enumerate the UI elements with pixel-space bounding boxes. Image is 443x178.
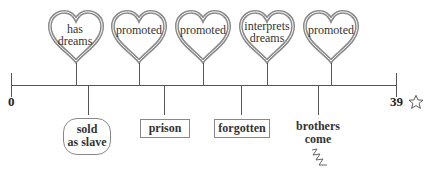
below-event-box: sold as slave: [63, 118, 111, 155]
timeline-axis-tail: [377, 85, 397, 86]
event-stem: [241, 85, 242, 115]
heart-icon: [302, 8, 360, 66]
timeline-start-label: 0: [8, 94, 15, 110]
event-stem: [203, 63, 204, 85]
below-event-label: forgotten: [218, 121, 265, 135]
timeline-end-label: 39: [390, 94, 403, 110]
star-outline-icon: [408, 94, 424, 110]
event-stem: [331, 63, 332, 85]
below-event-box: forgotten: [214, 119, 270, 138]
event-stem: [318, 85, 319, 115]
heart-icon: [174, 8, 232, 66]
below-event-label-2: come: [293, 133, 343, 146]
below-event-label-2: as slave: [64, 136, 110, 149]
above-event-label: promoted: [174, 24, 232, 36]
timeline-axis: [11, 85, 377, 86]
event-stem: [267, 63, 268, 85]
above-event-label: promoted: [110, 24, 168, 36]
event-stem: [76, 63, 77, 85]
below-event-label: prison: [149, 121, 182, 135]
above-event-label-2: dreams: [46, 35, 104, 47]
above-event-label-2: dreams: [238, 32, 296, 44]
event-stem: [88, 85, 89, 115]
event-stem: [164, 85, 165, 115]
zigzag-icon: [310, 148, 332, 172]
heart-icon: [110, 8, 168, 66]
above-event-label: promoted: [302, 24, 360, 36]
below-event-box: prison: [140, 119, 190, 138]
event-stem: [139, 63, 140, 85]
